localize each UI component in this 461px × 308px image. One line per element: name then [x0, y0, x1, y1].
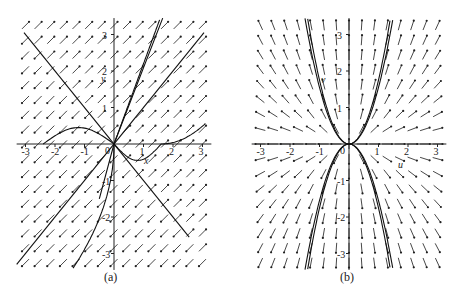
x-tick-label: -2 [51, 146, 59, 157]
x-axis-label: u [398, 159, 403, 170]
x-tick-label: -1 [316, 146, 324, 157]
y-tick-label: 1 [102, 103, 107, 114]
x-tick-label: 3 [434, 146, 439, 157]
x-tick-label: 2 [169, 146, 174, 157]
trajectory [99, 18, 162, 199]
x-tick-label: 2 [404, 146, 409, 157]
y-tick-label: -3 [337, 249, 345, 260]
panel-b: -3-2-1123-3-2-11230uv [252, 18, 447, 270]
x-tick-label: -1 [81, 146, 89, 157]
y-tick-label: 1 [337, 103, 342, 114]
caption-a: (a) [104, 270, 117, 285]
y-tick-label: 3 [102, 30, 107, 41]
y-tick-label: 2 [337, 66, 342, 77]
y-tick-label: -1 [337, 176, 345, 187]
trajectory [17, 33, 204, 265]
phase-portrait-figure: -3-2-1123-3-2-11230xy-3-2-1123-3-2-11230… [0, 0, 461, 308]
y-tick-label: 3 [337, 30, 342, 41]
x-tick-label: -3 [22, 146, 30, 157]
trajectory [24, 33, 189, 237]
caption-b: (b) [340, 270, 354, 285]
y-tick-label: -2 [102, 212, 110, 223]
y-axis-label: v [321, 74, 326, 85]
x-tick-label: -3 [257, 146, 265, 157]
panel-a: -3-2-1123-3-2-11230xy [17, 18, 212, 270]
y-tick-label: -2 [337, 212, 345, 223]
y-axis-label: y [100, 73, 106, 84]
y-tick-label: -3 [102, 249, 110, 260]
x-tick-label: 1 [375, 146, 380, 157]
x-tick-label: 3 [199, 146, 204, 157]
x-tick-label: -2 [286, 146, 294, 157]
